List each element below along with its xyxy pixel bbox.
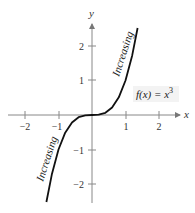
y-tick-label: 2 <box>79 41 84 52</box>
x-tick-label: 2 <box>157 121 162 132</box>
x-tick-label: 1 <box>124 121 129 132</box>
y-tick-label: 1 <box>79 75 84 86</box>
x-tick-label: −1 <box>52 121 63 132</box>
function-label: f(x) = x3 <box>136 86 173 101</box>
y-tick-label: −1 <box>73 145 84 156</box>
increasing-label-upper: Increasing <box>109 29 135 78</box>
x-tick-label: −2 <box>20 121 31 132</box>
function-exponent: 3 <box>169 86 173 95</box>
y-axis-label: y <box>88 7 94 19</box>
x-axis-label: x <box>183 108 189 120</box>
y-tick-label: −2 <box>73 179 84 190</box>
cubic-function-graph: x y −2 −1 1 2 2 1 −1 −2 Increasing Incre… <box>0 0 195 213</box>
